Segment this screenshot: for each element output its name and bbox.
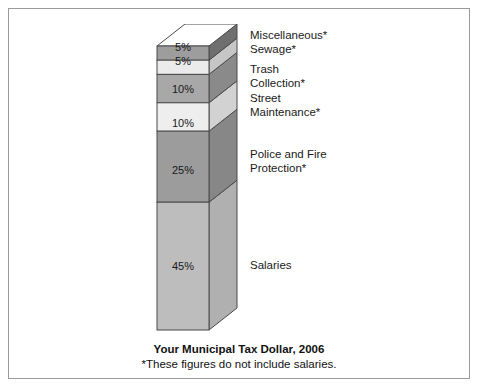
category-label-salaries: Salaries [250, 258, 292, 272]
value-label-miscellaneous: 5% [157, 42, 209, 53]
chart-caption: Your Municipal Tax Dollar, 2006 *These f… [8, 342, 470, 372]
category-label-street-maintenance: Street Maintenance* [250, 91, 320, 119]
category-label-sewage: Sewage* [250, 42, 296, 56]
figure-container: 5% 5% 10% 10% 25% 45% Miscellaneous* Sew… [0, 0, 480, 389]
bar-3d-graphic [145, 24, 255, 336]
category-label-police-fire: Police and Fire Protection* [250, 147, 327, 175]
caption-footnote: *These figures do not include salaries. [8, 357, 470, 372]
side-face-salaries [209, 180, 237, 330]
value-label-trash-collection: 10% [157, 84, 209, 95]
stacked-bar-chart: 5% 5% 10% 10% 25% 45% Miscellaneous* Sew… [0, 0, 480, 389]
caption-title: Your Municipal Tax Dollar, 2006 [8, 342, 470, 357]
value-label-street-maintenance: 10% [157, 118, 209, 129]
value-label-sewage: 5% [157, 56, 209, 67]
category-label-trash-collection: Trash Collection* [250, 62, 305, 90]
value-label-police-fire: 25% [157, 165, 209, 176]
value-label-salaries: 45% [157, 261, 209, 272]
category-label-miscellaneous: Miscellaneous* [250, 28, 327, 42]
